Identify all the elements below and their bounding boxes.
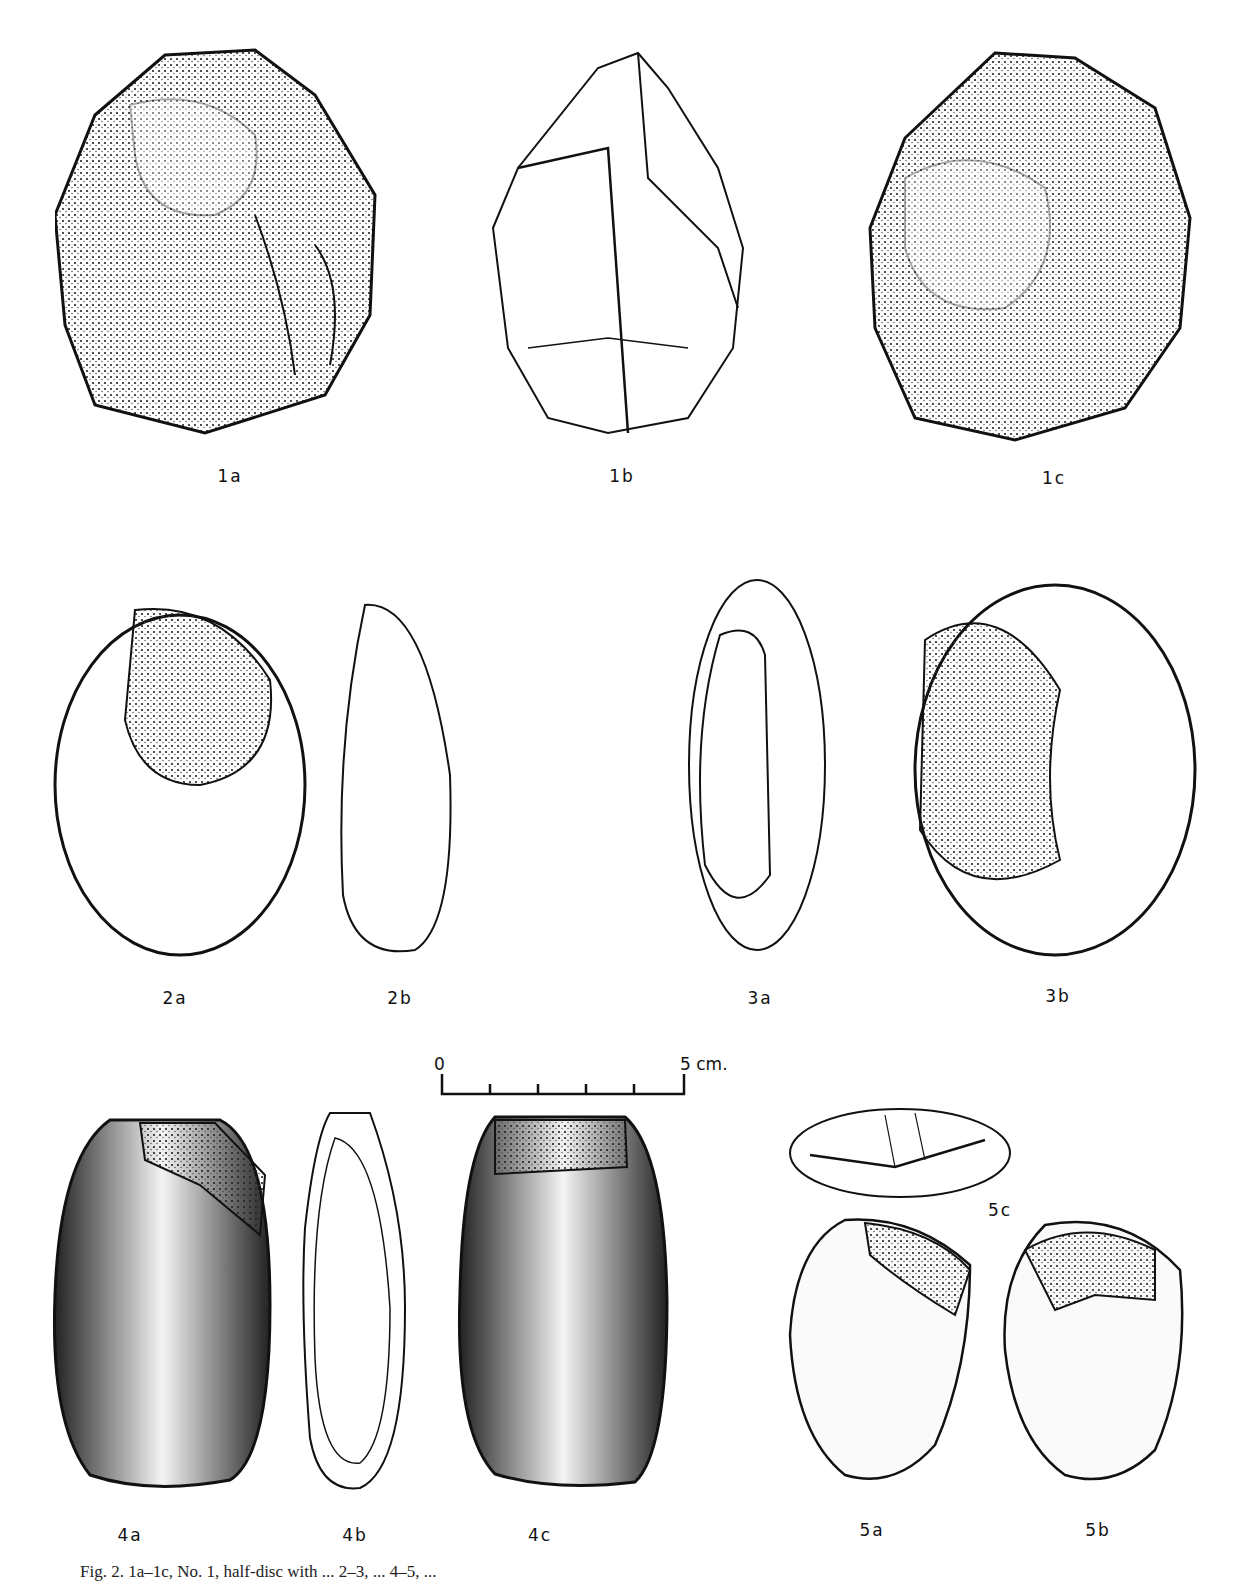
figure-label: 3b bbox=[1045, 986, 1071, 1006]
figure-label: 2a bbox=[162, 988, 187, 1008]
artifact-1c-drawing bbox=[865, 48, 1195, 443]
figure-label: 2b bbox=[387, 988, 413, 1008]
artifact-1b-drawing bbox=[488, 48, 748, 438]
artifact-4c-drawing bbox=[455, 1112, 670, 1492]
figure-label: 1c bbox=[1042, 468, 1066, 488]
figure-label: 1b bbox=[609, 466, 635, 486]
artifact-5a-drawing bbox=[785, 1215, 975, 1490]
artifact-5b-drawing bbox=[995, 1210, 1190, 1490]
artifact-3a-drawing bbox=[685, 575, 830, 960]
figure-label: 4a bbox=[117, 1525, 142, 1545]
figure-label: 4b bbox=[342, 1525, 368, 1545]
figure-label: 1a bbox=[217, 466, 242, 486]
figure-caption: Fig. 2. 1a–1c, No. 1, half-disc with ...… bbox=[80, 1562, 437, 1582]
artifact-1a-drawing bbox=[55, 45, 380, 435]
artifact-5c-drawing bbox=[785, 1105, 1015, 1205]
figure-label: 4c bbox=[528, 1525, 552, 1545]
artifact-4a-drawing bbox=[50, 1115, 275, 1490]
figure-label: 5b bbox=[1085, 1520, 1111, 1540]
scale-start-label: 0 bbox=[434, 1054, 445, 1074]
scale-end-label: 5 cm. bbox=[680, 1054, 728, 1074]
artifact-3b-drawing bbox=[910, 580, 1200, 960]
artifact-4b-drawing bbox=[300, 1108, 410, 1493]
figure-label: 5a bbox=[859, 1520, 884, 1540]
figure-label: 3a bbox=[747, 988, 772, 1008]
artifact-2a-drawing bbox=[50, 600, 310, 960]
artifact-2b-drawing bbox=[335, 595, 460, 957]
